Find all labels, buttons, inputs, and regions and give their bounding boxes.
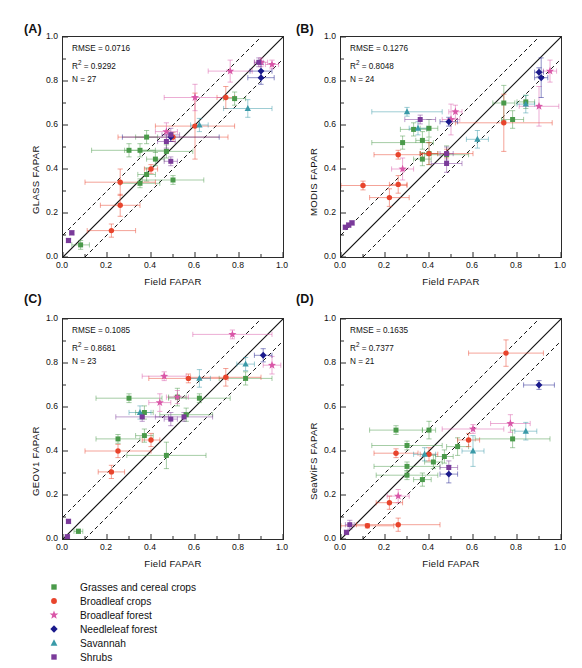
y-tick-label: 0.8	[36, 75, 58, 85]
grasses-and-cereal-crops-marker-icon	[46, 580, 62, 594]
x-tick-label: 0.6	[458, 260, 486, 270]
y-tick-label: 0.0	[314, 251, 336, 261]
y-tick-label: 1.0	[314, 31, 336, 41]
savannah-marker-icon	[46, 636, 62, 650]
y-tick-label: 0.2	[314, 207, 336, 217]
y-tick-label: 0.6	[314, 401, 336, 411]
y-tick-label: 0.0	[36, 533, 58, 543]
scatter-canvas	[63, 37, 283, 257]
y-tick-label: 0.6	[314, 119, 336, 129]
x-tick-label: 0.8	[224, 260, 252, 270]
y-tick-label: 0.6	[36, 401, 58, 411]
fapar-validation-figure: (A) RMSE = 0.0716 R2 = 0.9292 N = 27 GLA…	[0, 0, 582, 668]
legend-label: Shrubs	[80, 652, 112, 663]
panel-a-ylabel: GLASS FAPAR	[30, 145, 41, 214]
legend-label: Grasses and cereal crops	[80, 582, 196, 593]
x-tick-label: 0.8	[224, 542, 252, 552]
y-tick-label: 0.8	[314, 75, 336, 85]
broadleaf-forest-marker-icon	[46, 608, 62, 622]
x-tick-label: 0.4	[414, 542, 442, 552]
legend-label: Broadleaf forest	[80, 610, 152, 621]
x-tick-label: 0.2	[370, 542, 398, 552]
x-tick-label: 0.6	[180, 260, 208, 270]
x-tick-label: 1.0	[546, 260, 574, 270]
y-tick-label: 1.0	[36, 31, 58, 41]
legend-item[interactable]: Broadleaf forest	[46, 608, 306, 622]
legend-item[interactable]: Broadleaf crops	[46, 594, 306, 608]
x-tick-label: 0.0	[326, 260, 354, 270]
x-tick-label: 0.8	[502, 542, 530, 552]
scatter-canvas	[341, 319, 561, 539]
y-tick-label: 0.4	[314, 163, 336, 173]
scatter-canvas	[63, 319, 283, 539]
panel-d-xlabel: Field FAPAR	[340, 558, 562, 569]
legend-item[interactable]: Needleleaf forest	[46, 622, 306, 636]
x-tick-label: 0.0	[48, 260, 76, 270]
y-tick-label: 0.2	[36, 489, 58, 499]
x-tick-label: 1.0	[546, 542, 574, 552]
x-tick-label: 0.6	[458, 542, 486, 552]
needleleaf-forest-marker-icon	[46, 622, 62, 636]
y-tick-label: 0.8	[314, 357, 336, 367]
y-tick-label: 0.2	[36, 207, 58, 217]
y-tick-label: 1.0	[36, 313, 58, 323]
y-tick-label: 0.4	[36, 163, 58, 173]
panel-a-plot-area: RMSE = 0.0716 R2 = 0.9292 N = 27	[62, 36, 284, 258]
y-tick-label: 0.2	[314, 489, 336, 499]
legend-item[interactable]: Grasses and cereal crops	[46, 580, 306, 594]
x-tick-label: 1.0	[268, 260, 296, 270]
panel-b-label: (B)	[296, 22, 314, 36]
panel-b-plot-area: RMSE = 0.1276 R2 = 0.8048 N = 24	[340, 36, 562, 258]
y-tick-label: 0.4	[36, 445, 58, 455]
x-tick-label: 1.0	[268, 542, 296, 552]
panel-c-label: (C)	[24, 292, 42, 306]
x-tick-label: 0.2	[92, 260, 120, 270]
x-tick-label: 0.4	[136, 260, 164, 270]
panel-c-xlabel: Field FAPAR	[62, 558, 284, 569]
x-tick-label: 0.2	[370, 260, 398, 270]
scatter-canvas	[341, 37, 561, 257]
x-tick-label: 0.6	[180, 542, 208, 552]
legend-item[interactable]: Shrubs	[46, 650, 306, 664]
legend-label: Savannah	[80, 638, 126, 649]
legend-item[interactable]: Savannah	[46, 636, 306, 650]
shrubs-marker-icon	[46, 650, 62, 664]
panel-b-xlabel: Field FAPAR	[340, 276, 562, 287]
y-tick-label: 1.0	[314, 313, 336, 323]
legend-label: Needleleaf forest	[80, 624, 157, 635]
y-tick-label: 0.0	[314, 533, 336, 543]
x-tick-label: 0.4	[136, 542, 164, 552]
legend: Grasses and cereal crops Broadleaf crops…	[46, 580, 306, 664]
panel-c-ylabel: GEOV1 FAPAR	[30, 426, 41, 496]
x-tick-label: 0.0	[48, 542, 76, 552]
y-tick-label: 0.8	[36, 357, 58, 367]
panel-d-label: (D)	[296, 292, 314, 306]
y-tick-label: 0.6	[36, 119, 58, 129]
x-tick-label: 0.4	[414, 260, 442, 270]
legend-label: Broadleaf crops	[80, 596, 151, 607]
broadleaf-crops-marker-icon	[46, 594, 62, 608]
y-tick-label: 0.4	[314, 445, 336, 455]
x-tick-label: 0.8	[502, 260, 530, 270]
panel-c-plot-area: RMSE = 0.1085 R2 = 0.8681 N = 23	[62, 318, 284, 540]
panel-a-xlabel: Field FAPAR	[62, 276, 284, 287]
panel-d-plot-area: RMSE = 0.1635 R2 = 0.7377 N = 21	[340, 318, 562, 540]
x-tick-label: 0.0	[326, 542, 354, 552]
y-tick-label: 0.0	[36, 251, 58, 261]
x-tick-label: 0.2	[92, 542, 120, 552]
